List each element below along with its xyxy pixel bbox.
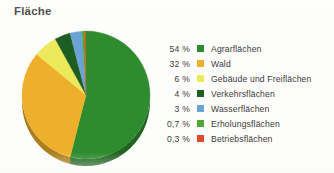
legend-color-swatch xyxy=(197,90,204,97)
legend-color-swatch xyxy=(197,45,204,52)
legend-label: Agrarflächen xyxy=(211,44,262,54)
legend-color-swatch xyxy=(197,60,204,67)
legend-label: Gebäude und Freiflächen xyxy=(211,74,311,84)
pie-slices xyxy=(22,31,150,159)
legend-color-swatch xyxy=(197,75,204,82)
legend-label: Wald xyxy=(211,59,231,69)
legend-color-swatch xyxy=(197,120,204,127)
legend-value: 4 % xyxy=(150,89,190,99)
legend-label: Erholungsflächen xyxy=(211,119,280,129)
pie-chart xyxy=(20,28,154,173)
legend-row: 6 %Gebäude und Freiflächen xyxy=(150,71,334,86)
legend-color-swatch xyxy=(197,135,204,142)
chart-page: Fläche 54 %Agrarflächen32 %Wald6 %Gebäud… xyxy=(0,0,334,173)
legend-row: 0,7 %Erholungsflächen xyxy=(150,116,334,131)
legend-value: 32 % xyxy=(150,59,190,69)
legend-value: 54 % xyxy=(150,44,190,54)
legend-label: Wasserflächen xyxy=(211,104,269,114)
legend-color-swatch xyxy=(197,105,204,112)
legend-value: 6 % xyxy=(150,74,190,84)
legend-row: 54 %Agrarflächen xyxy=(150,41,334,56)
legend-value: 0,3 % xyxy=(150,134,190,144)
legend-label: Verkehrsflächen xyxy=(211,89,275,99)
legend-row: 4 %Verkehrsflächen xyxy=(150,86,334,101)
legend-value: 0,7 % xyxy=(150,119,190,129)
legend: 54 %Agrarflächen32 %Wald6 %Gebäude und F… xyxy=(150,41,334,146)
legend-label: Betriebsflächen xyxy=(211,134,273,144)
legend-row: 32 %Wald xyxy=(150,56,334,71)
pie-chart-svg xyxy=(20,28,154,173)
legend-row: 3 %Wasserflächen xyxy=(150,101,334,116)
page-title: Fläche xyxy=(14,5,52,17)
legend-row: 0,3 %Betriebsflächen xyxy=(150,131,334,146)
legend-value: 3 % xyxy=(150,104,190,114)
